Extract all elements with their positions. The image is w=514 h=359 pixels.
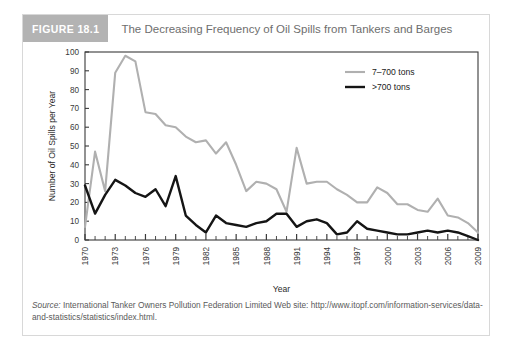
chart-plot: 0102030405060708090100 19701973197619791… bbox=[23, 42, 491, 294]
source-text: International Tanker Owners Pollution Fe… bbox=[32, 300, 483, 322]
x-tick-label: 1988 bbox=[263, 247, 272, 266]
x-tick-label: 1985 bbox=[232, 247, 241, 266]
y-axis-title: Number of Oil Spills per Year bbox=[47, 91, 57, 201]
x-tick-label: 2003 bbox=[414, 247, 423, 266]
legend-label: >700 tons bbox=[372, 82, 410, 92]
x-axis-ticks: 1970197319761979198219851988199119941997… bbox=[81, 234, 483, 265]
x-tick-label: 2000 bbox=[384, 247, 393, 266]
source-label: Source: bbox=[32, 300, 61, 310]
x-tick-label: 1991 bbox=[293, 247, 302, 266]
x-tick-label: 1973 bbox=[111, 247, 120, 266]
plot-frame bbox=[85, 52, 478, 240]
x-tick-label: 2006 bbox=[444, 247, 453, 266]
x-tick-label: 2009 bbox=[474, 247, 483, 266]
y-tick-label: 90 bbox=[70, 67, 80, 76]
x-tick-label: 1997 bbox=[353, 247, 362, 266]
oil-spills-line-chart: 0102030405060708090100 19701973197619791… bbox=[23, 42, 491, 294]
source-note: Source: International Tanker Owners Poll… bbox=[32, 299, 484, 323]
y-tick-label: 70 bbox=[70, 104, 80, 113]
y-tick-label: 40 bbox=[70, 161, 80, 170]
figure-title: The Decreasing Frequency of Oil Spills f… bbox=[108, 23, 452, 35]
series-line--700-tons bbox=[85, 176, 478, 240]
y-tick-label: 0 bbox=[74, 236, 79, 245]
figure-card: FIGURE 18.1 The Decreasing Frequency of … bbox=[22, 14, 490, 336]
legend-label: 7–700 tons bbox=[372, 67, 415, 77]
series-line-7-700-tons bbox=[85, 56, 478, 233]
x-axis-title: Year bbox=[273, 284, 291, 294]
y-tick-label: 80 bbox=[70, 86, 80, 95]
x-tick-label: 1970 bbox=[81, 247, 90, 266]
y-tick-label: 50 bbox=[70, 142, 80, 151]
x-tick-label: 1976 bbox=[142, 247, 151, 266]
y-tick-label: 30 bbox=[70, 180, 80, 189]
y-tick-label: 20 bbox=[70, 198, 80, 207]
figure-header: FIGURE 18.1 The Decreasing Frequency of … bbox=[23, 15, 489, 42]
x-tick-label: 1994 bbox=[323, 247, 332, 266]
chart-legend: 7–700 tons>700 tons bbox=[345, 67, 415, 92]
x-tick-label: 1979 bbox=[172, 247, 181, 266]
y-tick-label: 100 bbox=[65, 48, 79, 57]
figure-number-badge: FIGURE 18.1 bbox=[23, 15, 108, 42]
y-tick-label: 10 bbox=[70, 217, 80, 226]
data-series-group bbox=[85, 56, 478, 240]
x-tick-label: 1982 bbox=[202, 247, 211, 266]
y-tick-label: 60 bbox=[70, 123, 80, 132]
